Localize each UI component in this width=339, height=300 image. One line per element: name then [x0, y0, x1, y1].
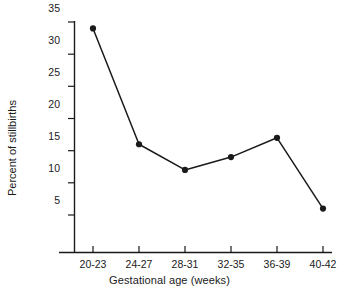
data-point-36-39 [274, 135, 280, 141]
y-tick-label-35: 35 [38, 2, 60, 14]
y-tick-label-5: 5 [38, 194, 60, 206]
data-point-28-31 [182, 167, 188, 173]
chart-container: 5 10 15 20 25 30 35 20-23 24-27 28-31 32… [0, 0, 339, 300]
x-tick-label-36-39: 36-39 [251, 258, 303, 270]
data-series-line [93, 28, 323, 208]
x-tick-label-32-35: 32-35 [205, 258, 257, 270]
x-tick-label-20-23: 20-23 [67, 258, 119, 270]
x-tick-label-28-31: 28-31 [159, 258, 211, 270]
x-axis-title: Gestational age (weeks) [0, 274, 339, 286]
y-tick-label-30: 30 [38, 34, 60, 46]
data-point-20-23 [90, 25, 96, 31]
y-tick-label-25: 25 [38, 66, 60, 78]
y-tick-label-20: 20 [38, 98, 60, 110]
data-point-24-27 [136, 141, 142, 147]
x-tick-label-24-27: 24-27 [113, 258, 165, 270]
data-point-40-42 [320, 205, 326, 211]
y-axis-title-text: Percent of stillbirths [6, 100, 18, 196]
y-tick-label-10: 10 [38, 162, 60, 174]
data-point-32-35 [228, 154, 234, 160]
data-point-markers [90, 25, 326, 211]
x-axis-ticks [93, 246, 323, 253]
x-tick-label-40-42: 40-42 [297, 258, 339, 270]
y-tick-label-15: 15 [38, 130, 60, 142]
y-axis-ticks [68, 22, 75, 215]
